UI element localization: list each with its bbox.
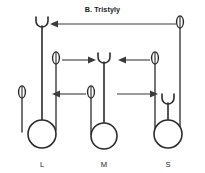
- morph-L: L: [19, 17, 60, 169]
- pollen-arrow-mid-level-right: [118, 57, 150, 64]
- S-anther-mid: [152, 52, 159, 64]
- morph-M: M: [88, 53, 117, 169]
- tristyly-diagram-canvas: B. Tristyly L: [0, 0, 205, 173]
- L-anther-mid: [53, 52, 60, 64]
- pollen-arrow-mid-level-left: [62, 57, 96, 64]
- M-ovary: [91, 123, 117, 149]
- L-ovary: [28, 120, 56, 148]
- morph-S: S: [152, 16, 184, 169]
- M-anther-short: [88, 86, 95, 98]
- S-ovary: [154, 120, 182, 148]
- morph-label-L: L: [40, 160, 44, 169]
- tristyly-figure: B. Tristyly L: [0, 0, 205, 173]
- pollen-arrow-short-level-left: [52, 91, 86, 98]
- S-anther-long: [177, 16, 184, 28]
- L-anther-short: [19, 86, 26, 98]
- morph-label-S: S: [165, 160, 170, 169]
- figure-title: B. Tristyly: [85, 5, 120, 14]
- pollen-arrow-long-level: [50, 21, 176, 28]
- morph-label-M: M: [101, 160, 107, 169]
- pollen-arrow-short-level-right: [117, 91, 158, 98]
